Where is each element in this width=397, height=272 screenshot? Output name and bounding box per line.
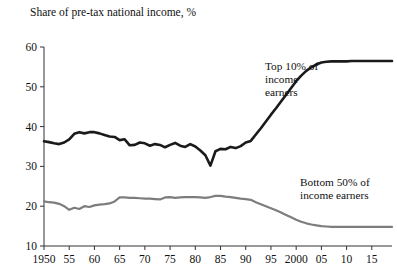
series-lines — [44, 61, 392, 227]
y-tick-label: 20 — [26, 200, 38, 212]
y-tick-label: 40 — [26, 121, 38, 133]
y-tick-label: 60 — [26, 41, 38, 53]
y-axis: 102030405060 — [26, 41, 45, 252]
x-tick-label: 15 — [366, 253, 378, 265]
annotation-top-10: Top 10% of income earners — [265, 60, 318, 99]
x-tick-label: 55 — [63, 253, 75, 265]
y-tick-label: 10 — [26, 240, 38, 252]
y-tick-label: 30 — [26, 160, 38, 172]
x-tick-label: 85 — [215, 253, 227, 265]
x-tick-label: 1950 — [33, 253, 56, 265]
x-tick-label: 2000 — [285, 253, 308, 265]
x-tick-label: 65 — [114, 253, 126, 265]
x-tick-label: 80 — [190, 253, 202, 265]
line-chart-plot: 102030405060 195055606570758085909520000… — [0, 0, 397, 272]
x-tick-label: 90 — [240, 253, 252, 265]
x-axis: 19505560657075808590952000051015 — [33, 246, 393, 265]
x-tick-label: 70 — [139, 253, 151, 265]
series-line-0 — [44, 61, 392, 166]
x-tick-label: 60 — [89, 253, 101, 265]
annotation-bottom-50: Bottom 50% of income earners — [300, 176, 370, 202]
chart-figure: Share of pre-tax national income, % 1020… — [0, 0, 397, 272]
x-tick-label: 05 — [316, 253, 328, 265]
x-tick-label: 95 — [265, 253, 277, 265]
x-tick-label: 75 — [164, 253, 176, 265]
x-tick-label: 10 — [341, 253, 353, 265]
y-tick-label: 50 — [26, 81, 38, 93]
